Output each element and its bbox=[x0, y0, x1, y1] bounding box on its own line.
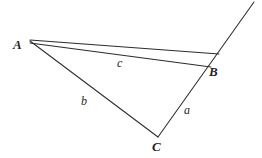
side-label-a: a bbox=[184, 104, 190, 116]
vertex-label-b: B bbox=[209, 65, 218, 78]
vertex-label-c: C bbox=[152, 140, 161, 153]
geometry-figure: A B C a b c bbox=[0, 0, 262, 158]
side-label-c: c bbox=[117, 57, 122, 69]
side-b-line bbox=[30, 41, 158, 137]
side-label-b: b bbox=[81, 95, 87, 107]
side-a-line bbox=[158, 2, 254, 137]
figure-canvas bbox=[0, 0, 262, 158]
vertex-label-a: A bbox=[13, 38, 22, 51]
